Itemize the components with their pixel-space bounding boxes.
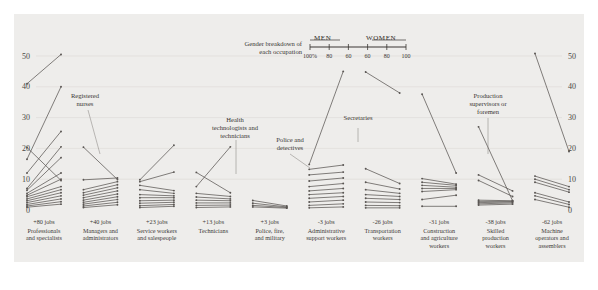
slope-endpoint: [26, 147, 28, 149]
slope-endpoint: [173, 197, 175, 199]
slope-endpoint: [82, 203, 84, 205]
slope-endpoint: [252, 202, 254, 204]
slope-endpoint: [229, 206, 231, 208]
slope-endpoint: [82, 201, 84, 203]
slope-endpoint: [421, 191, 423, 193]
slope-endpoint: [229, 204, 231, 206]
slope-endpoint: [26, 200, 28, 202]
slope-endpoint: [399, 195, 401, 197]
slope-line: [140, 206, 174, 207]
slope-line: [196, 207, 230, 208]
legend-title: Gender breakdown of each occupation: [194, 40, 302, 56]
slope-endpoint: [308, 204, 310, 206]
slope-endpoint: [229, 202, 231, 204]
slope-endpoint: [252, 206, 254, 208]
slope-endpoint: [421, 178, 423, 180]
slope-endpoint: [478, 204, 480, 206]
axis-label-left: 10: [22, 175, 30, 184]
slope-endpoint: [173, 199, 175, 201]
slope-line: [479, 202, 513, 203]
slope-line: [422, 195, 456, 199]
slope-endpoint: [478, 126, 480, 128]
slope-line: [309, 200, 343, 202]
category-group: [195, 146, 231, 209]
annotation-secretaries: Secretaries: [330, 114, 386, 122]
slope-line: [535, 54, 569, 152]
slope-endpoint: [308, 163, 310, 165]
slope-endpoint: [116, 196, 118, 198]
slope-endpoint: [139, 197, 141, 199]
category-group: [252, 200, 288, 210]
slope-endpoint: [60, 195, 62, 197]
slope-endpoint: [308, 186, 310, 188]
slope-endpoint: [60, 203, 62, 205]
slope-line: [27, 179, 61, 195]
slope-endpoint: [82, 192, 84, 194]
slope-endpoint: [173, 190, 175, 192]
slope-endpoint: [116, 190, 118, 192]
slope-line: [196, 193, 230, 196]
slope-endpoint: [365, 168, 367, 170]
slope-endpoint: [195, 196, 197, 198]
axis-label-left: 20: [22, 144, 30, 153]
category-group: [478, 126, 514, 206]
slope-endpoint: [26, 83, 28, 85]
slope-line: [27, 54, 61, 83]
slope-line: [309, 178, 343, 181]
slope-endpoint: [82, 207, 84, 209]
annotation-leader-line: [88, 110, 100, 154]
slope-line: [422, 94, 456, 173]
slope-endpoint: [229, 195, 231, 197]
slope-endpoint: [342, 187, 344, 189]
slope-endpoint: [568, 206, 570, 208]
slope-line: [196, 147, 230, 187]
slope-line: [196, 172, 230, 192]
slope-endpoint: [534, 199, 536, 201]
legend-tick-label: 60: [345, 53, 351, 59]
slope-endpoint: [308, 190, 310, 192]
annotation-police-and-detectives: Police and detectives: [262, 136, 318, 152]
slope-endpoint: [173, 144, 175, 146]
slope-endpoint: [139, 205, 141, 207]
slope-endpoint: [173, 201, 175, 203]
slope-endpoint: [60, 146, 62, 148]
slope-endpoint: [365, 207, 367, 209]
slope-line: [140, 195, 174, 196]
slope-endpoint: [342, 203, 344, 205]
slope-endpoint: [60, 86, 62, 88]
slope-line: [479, 200, 513, 201]
axis-label-right: 30: [568, 113, 576, 122]
legend-women-label: WOMEN: [366, 34, 396, 42]
slope-endpoint: [399, 188, 401, 190]
slope-endpoint: [173, 195, 175, 197]
slope-line: [196, 197, 230, 199]
legend-men-label: MEN: [314, 34, 331, 42]
slope-endpoint: [568, 204, 570, 206]
slope-endpoint: [399, 202, 401, 204]
slope-endpoint: [116, 181, 118, 183]
slope-endpoint: [26, 192, 28, 194]
slope-endpoint: [365, 204, 367, 206]
slope-endpoint: [342, 171, 344, 173]
slope-endpoint: [60, 186, 62, 188]
slope-endpoint: [26, 206, 28, 208]
slope-endpoint: [60, 54, 62, 56]
chart-panel: 0010102020303040405050100%80606080100 Ge…: [14, 14, 584, 262]
category-group: [82, 146, 118, 208]
slope-line: [535, 182, 569, 192]
slope-endpoint: [60, 201, 62, 203]
slope-endpoint: [116, 204, 118, 206]
slope-endpoint: [399, 205, 401, 207]
slope-endpoint: [365, 189, 367, 191]
slope-endpoint: [116, 201, 118, 203]
slope-endpoint: [60, 172, 62, 174]
slope-endpoint: [399, 199, 401, 201]
slope-line: [366, 202, 400, 203]
slope-endpoint: [342, 192, 344, 194]
slope-line: [309, 193, 343, 195]
slope-endpoint: [195, 199, 197, 201]
slope-endpoint: [568, 151, 570, 153]
slope-line: [535, 176, 569, 186]
slope-line: [140, 185, 174, 190]
legend-tick-label: 100: [402, 53, 411, 59]
